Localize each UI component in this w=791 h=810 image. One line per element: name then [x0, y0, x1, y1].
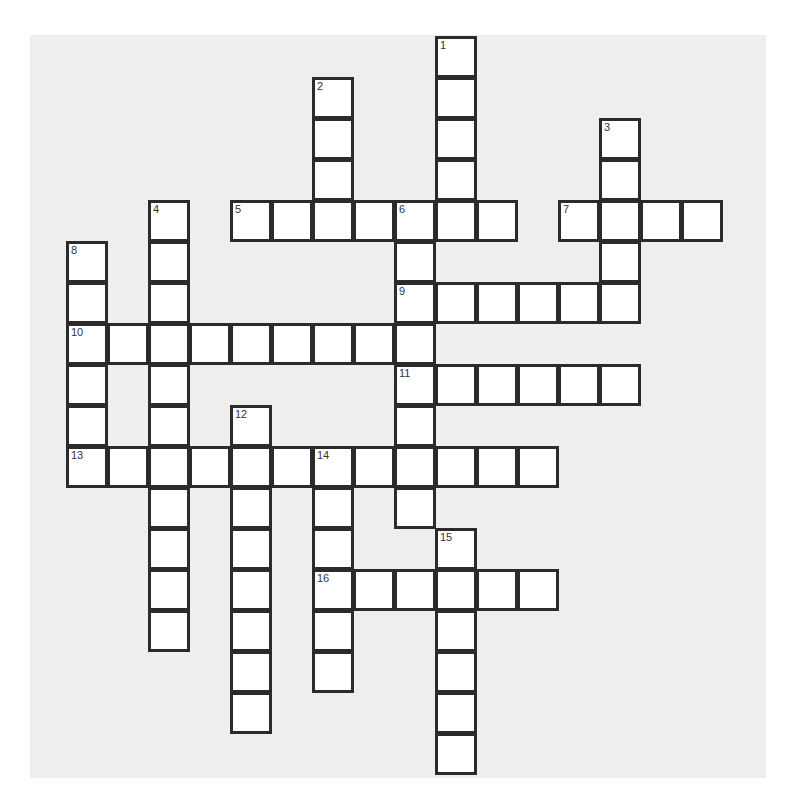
crossword-cell[interactable]: 9: [394, 282, 436, 324]
crossword-cell[interactable]: [230, 610, 272, 652]
crossword-cell[interactable]: [148, 528, 190, 570]
crossword-cell[interactable]: [148, 405, 190, 447]
crossword-cell[interactable]: 15: [435, 528, 477, 570]
clue-number: 9: [399, 285, 405, 297]
clue-number: 2: [317, 80, 323, 92]
crossword-cell[interactable]: [435, 610, 477, 652]
crossword-cell[interactable]: [230, 323, 272, 365]
crossword-cell[interactable]: [271, 323, 313, 365]
crossword-cell[interactable]: [107, 323, 149, 365]
clue-number: 10: [71, 326, 83, 338]
crossword-cell[interactable]: [394, 323, 436, 365]
crossword-cell[interactable]: [394, 569, 436, 611]
crossword-cell[interactable]: [394, 241, 436, 283]
crossword-cell[interactable]: [353, 569, 395, 611]
crossword-cell[interactable]: 12: [230, 405, 272, 447]
crossword-cell[interactable]: [435, 364, 477, 406]
clue-number: 3: [604, 121, 610, 133]
crossword-cell[interactable]: [148, 610, 190, 652]
crossword-cell[interactable]: [517, 569, 559, 611]
crossword-cell[interactable]: [312, 487, 354, 529]
crossword-cell[interactable]: [435, 77, 477, 119]
clue-number: 15: [440, 531, 452, 543]
crossword-cell[interactable]: 3: [599, 118, 641, 160]
crossword-cell[interactable]: [599, 200, 641, 242]
crossword-cell[interactable]: 7: [558, 200, 600, 242]
crossword-cell[interactable]: [517, 282, 559, 324]
crossword-cell[interactable]: [148, 446, 190, 488]
crossword-cell[interactable]: 13: [66, 446, 108, 488]
crossword-cell[interactable]: [312, 159, 354, 201]
clue-number: 6: [399, 203, 405, 215]
crossword-cell[interactable]: [148, 569, 190, 611]
crossword-cell[interactable]: [435, 733, 477, 775]
crossword-cell[interactable]: [66, 282, 108, 324]
crossword-cell[interactable]: [148, 241, 190, 283]
crossword-cell[interactable]: [312, 200, 354, 242]
crossword-cell[interactable]: [312, 323, 354, 365]
clue-number: 8: [71, 244, 77, 256]
crossword-cell[interactable]: [148, 487, 190, 529]
crossword-cell[interactable]: [230, 528, 272, 570]
crossword-cell[interactable]: [599, 282, 641, 324]
crossword-cell[interactable]: [353, 446, 395, 488]
crossword-cell[interactable]: [189, 446, 231, 488]
crossword-cell[interactable]: [476, 364, 518, 406]
crossword-cell[interactable]: [681, 200, 723, 242]
crossword-cell[interactable]: [230, 692, 272, 734]
crossword-cell[interactable]: 8: [66, 241, 108, 283]
crossword-cell[interactable]: [435, 159, 477, 201]
crossword-cell[interactable]: [66, 364, 108, 406]
crossword-cell[interactable]: [476, 200, 518, 242]
crossword-cell[interactable]: [394, 405, 436, 447]
crossword-cell[interactable]: [476, 569, 518, 611]
crossword-cell[interactable]: [435, 282, 477, 324]
crossword-cell[interactable]: [435, 692, 477, 734]
crossword-cell[interactable]: [312, 118, 354, 160]
crossword-cell[interactable]: [148, 323, 190, 365]
crossword-cell[interactable]: 5: [230, 200, 272, 242]
crossword-cell[interactable]: [230, 651, 272, 693]
crossword-cell[interactable]: [640, 200, 682, 242]
crossword-cell[interactable]: [353, 323, 395, 365]
crossword-cell[interactable]: [66, 405, 108, 447]
crossword-cell[interactable]: 4: [148, 200, 190, 242]
crossword-cell[interactable]: [435, 569, 477, 611]
crossword-cell[interactable]: [271, 200, 313, 242]
crossword-cell[interactable]: [435, 118, 477, 160]
crossword-cell[interactable]: 11: [394, 364, 436, 406]
crossword-cell[interactable]: [312, 528, 354, 570]
crossword-cell[interactable]: 14: [312, 446, 354, 488]
crossword-cell[interactable]: 16: [312, 569, 354, 611]
crossword-cell[interactable]: [271, 446, 313, 488]
crossword-cell[interactable]: [435, 446, 477, 488]
clue-number: 7: [563, 203, 569, 215]
crossword-cell[interactable]: [476, 282, 518, 324]
crossword-cell[interactable]: [394, 487, 436, 529]
crossword-cell[interactable]: [230, 487, 272, 529]
crossword-cell[interactable]: 6: [394, 200, 436, 242]
crossword-cell[interactable]: [558, 364, 600, 406]
crossword-cell[interactable]: 2: [312, 77, 354, 119]
crossword-cell[interactable]: 1: [435, 36, 477, 78]
crossword-cell[interactable]: [230, 569, 272, 611]
crossword-cell[interactable]: [312, 651, 354, 693]
crossword-cell[interactable]: [599, 364, 641, 406]
crossword-cell[interactable]: [435, 651, 477, 693]
crossword-cell[interactable]: [435, 200, 477, 242]
crossword-cell[interactable]: [517, 446, 559, 488]
crossword-cell[interactable]: [517, 364, 559, 406]
crossword-cell[interactable]: [107, 446, 149, 488]
crossword-cell[interactable]: [353, 200, 395, 242]
crossword-cell[interactable]: [558, 282, 600, 324]
crossword-cell[interactable]: [230, 446, 272, 488]
crossword-cell[interactable]: [599, 241, 641, 283]
crossword-cell[interactable]: [148, 282, 190, 324]
crossword-cell[interactable]: [189, 323, 231, 365]
crossword-cell[interactable]: [148, 364, 190, 406]
crossword-cell[interactable]: [476, 446, 518, 488]
crossword-cell[interactable]: [599, 159, 641, 201]
crossword-cell[interactable]: 10: [66, 323, 108, 365]
crossword-cell[interactable]: [394, 446, 436, 488]
crossword-cell[interactable]: [312, 610, 354, 652]
